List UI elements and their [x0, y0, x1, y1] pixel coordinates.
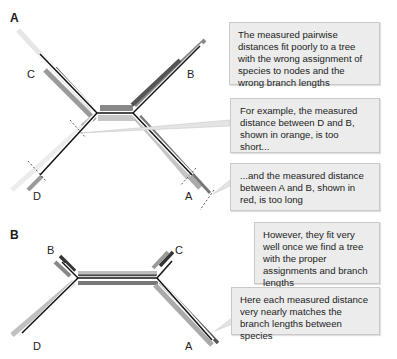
leaf-label-c: C — [27, 68, 35, 80]
panel-b-tree — [12, 252, 218, 345]
leaf-label-a: A — [185, 340, 192, 352]
callout-correct-tree: However, they fit very well once we find… — [254, 222, 380, 284]
callout-ab-too-long: ...and the measured distance between A a… — [230, 163, 380, 211]
leaf-label-c: C — [175, 244, 183, 256]
leaf-label-b: B — [47, 244, 54, 256]
panel-a-label: A — [10, 11, 19, 25]
leaf-label-d: D — [33, 190, 41, 202]
panel-a-tree — [12, 30, 214, 210]
leaf-label-d: D — [33, 340, 41, 352]
callout-pointer — [213, 180, 230, 194]
leaf-label-a: A — [185, 190, 192, 202]
callout-pointer — [215, 318, 232, 331]
callout-distances-match: Here each measured distance very nearly … — [231, 287, 380, 335]
callout-db-too-short: For example, the measured distance betwe… — [230, 98, 380, 153]
callout-wrong-tree: The measured pairwise distances fit poor… — [229, 22, 380, 85]
panel-b-label: B — [10, 228, 19, 242]
leaf-label-b: B — [187, 68, 194, 80]
